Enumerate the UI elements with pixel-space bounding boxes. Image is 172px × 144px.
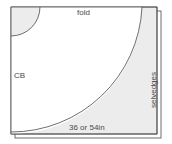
circle-skirt-diagram: fold CB selvedges 36 or 54in bbox=[0, 0, 172, 144]
selvedges-label: selvedges bbox=[150, 72, 158, 108]
fold-label: fold bbox=[77, 9, 90, 17]
fabric-width-label: 36 or 54in bbox=[69, 124, 105, 132]
center-back-label: CB bbox=[14, 72, 25, 80]
